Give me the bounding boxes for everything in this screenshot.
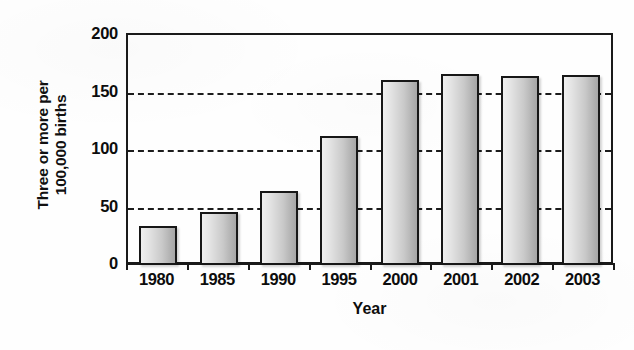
y-axis-tick-label: 150 — [62, 81, 118, 100]
bar-slot — [370, 35, 430, 265]
x-axis-tick-label: 1980 — [126, 270, 187, 289]
y-axis-tick-label: 100 — [62, 139, 118, 158]
x-axis-tick-label: 2000 — [370, 270, 431, 289]
y-axis-tick-label: 200 — [62, 24, 118, 43]
x-axis-tick-label: 1990 — [248, 270, 309, 289]
bar-1980[interactable] — [139, 226, 177, 265]
y-axis-tick-labels: 050100150200 — [62, 0, 118, 350]
y-axis-tick-label: 0 — [62, 254, 118, 273]
bar-slot — [128, 35, 188, 265]
bar-slot — [490, 35, 550, 265]
bar-series — [128, 35, 611, 265]
y-axis-title-line-1: Three or more per — [34, 80, 52, 209]
chart-page: Three or more per 100,000 births 0501001… — [0, 0, 634, 350]
bar-1990[interactable] — [260, 191, 298, 265]
x-axis-tick-label: 2001 — [430, 270, 491, 289]
x-axis-title: Year — [126, 300, 613, 318]
bar-2001[interactable] — [441, 74, 479, 265]
bar-slot — [309, 35, 369, 265]
x-axis-tick-label: 2002 — [491, 270, 552, 289]
bar-1985[interactable] — [200, 212, 238, 265]
bar-2002[interactable] — [501, 76, 539, 265]
bar-slot — [249, 35, 309, 265]
bar-slot — [551, 35, 611, 265]
y-axis-tick-label: 50 — [62, 196, 118, 215]
x-axis-tick-label: 1985 — [187, 270, 248, 289]
bar-2000[interactable] — [381, 80, 419, 265]
x-axis-tick-mark — [613, 263, 615, 270]
bar-2003[interactable] — [562, 75, 600, 265]
x-axis-tick-labels: 19801985199019952000200120022003 — [126, 270, 613, 289]
x-axis-tick-label: 2003 — [552, 270, 613, 289]
bar-1995[interactable] — [320, 136, 358, 265]
plot-area — [126, 33, 613, 263]
bar-slot — [188, 35, 248, 265]
bar-slot — [430, 35, 490, 265]
x-axis-tick-label: 1995 — [309, 270, 370, 289]
